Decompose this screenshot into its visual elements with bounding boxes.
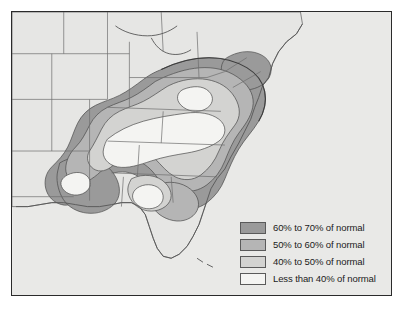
- map-legend: 60% to 70% of normal 50% to 60% of norma…: [240, 220, 392, 288]
- drought-map-figure: 60% to 70% of normal 50% to 60% of norma…: [0, 0, 405, 311]
- legend-swatch-less-than-40: [240, 273, 266, 285]
- legend-item-40-50: 40% to 50% of normal: [240, 254, 392, 269]
- legend-label-50-60: 50% to 60% of normal: [273, 239, 364, 251]
- legend-label-40-50: 40% to 50% of normal: [273, 256, 364, 268]
- band-less-than-40-pocket-west: [61, 172, 90, 195]
- legend-swatch-40-50: [240, 256, 266, 268]
- legend-swatch-60-70: [240, 222, 266, 234]
- legend-item-less-than-40: Less than 40% of normal: [240, 271, 392, 286]
- legend-label-less-than-40: Less than 40% of normal: [273, 273, 376, 285]
- map-frame: 60% to 70% of normal 50% to 60% of norma…: [11, 11, 392, 296]
- legend-item-50-60: 50% to 60% of normal: [240, 237, 392, 252]
- legend-item-60-70: 60% to 70% of normal: [240, 220, 392, 235]
- legend-swatch-50-60: [240, 239, 266, 251]
- legend-label-60-70: 60% to 70% of normal: [273, 222, 364, 234]
